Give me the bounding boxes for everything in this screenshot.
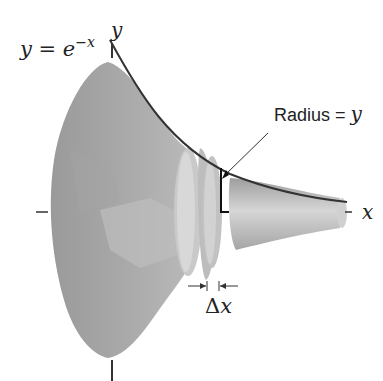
curve-equation-label: y = e−x xyxy=(19,34,95,61)
x-axis-label: x xyxy=(362,200,373,224)
solid-bell xyxy=(51,62,186,358)
solid-of-revolution-diagram: y = e−x y x Radius = y Δx xyxy=(0,0,383,381)
delta-x-marker xyxy=(188,281,238,291)
radius-pointer-arrow xyxy=(224,133,268,176)
delta-x-label: Δx xyxy=(205,294,232,318)
disk-slices xyxy=(174,148,222,280)
y-axis-label: y xyxy=(110,18,123,42)
solid-tail xyxy=(229,178,347,250)
radius-label: Radius = y xyxy=(274,102,363,126)
